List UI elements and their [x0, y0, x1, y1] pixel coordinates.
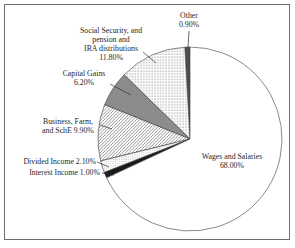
- label-wages-salaries: Wages and Salaries 68.00%: [192, 152, 272, 170]
- leader-line: [188, 31, 189, 48]
- label-divided-income: Divided Income 2.10%: [10, 157, 96, 166]
- figure-canvas: Other 0.90% Social Security, and pension…: [0, 0, 295, 248]
- label-other: Other 0.90%: [160, 11, 218, 29]
- label-interest-income: Interest Income 1.00%: [14, 168, 100, 177]
- label-business-farm-sche: Business, Farm, and SchE 9.90%: [29, 117, 107, 135]
- label-capital-gains: Capital Gains 6.20%: [42, 69, 126, 87]
- label-social-security: Social Security, and pension and IRA dis…: [62, 26, 160, 62]
